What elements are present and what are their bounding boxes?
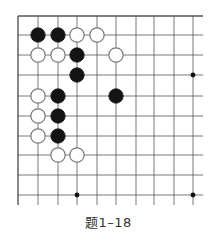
white-stone xyxy=(90,28,104,42)
white-stone xyxy=(51,48,65,62)
black-stone xyxy=(51,28,65,42)
black-stone xyxy=(51,89,65,103)
black-stone xyxy=(51,129,65,143)
black-stone xyxy=(70,68,84,82)
white-stone xyxy=(70,148,84,162)
star-point xyxy=(191,73,196,78)
black-stone xyxy=(70,48,84,62)
white-stone xyxy=(109,48,123,62)
white-stone xyxy=(31,109,45,123)
star-point xyxy=(191,193,196,198)
white-stone xyxy=(31,48,45,62)
problem-caption: 题1–18 xyxy=(0,212,217,231)
board-grid xyxy=(18,16,203,205)
black-stone xyxy=(31,28,45,42)
star-points xyxy=(75,73,196,198)
white-stone xyxy=(31,129,45,143)
black-stone xyxy=(109,89,123,103)
go-board[interactable] xyxy=(0,0,217,210)
black-stone xyxy=(51,109,65,123)
white-stone xyxy=(70,28,84,42)
white-stone xyxy=(51,148,65,162)
white-stone xyxy=(31,89,45,103)
star-point xyxy=(75,193,80,198)
